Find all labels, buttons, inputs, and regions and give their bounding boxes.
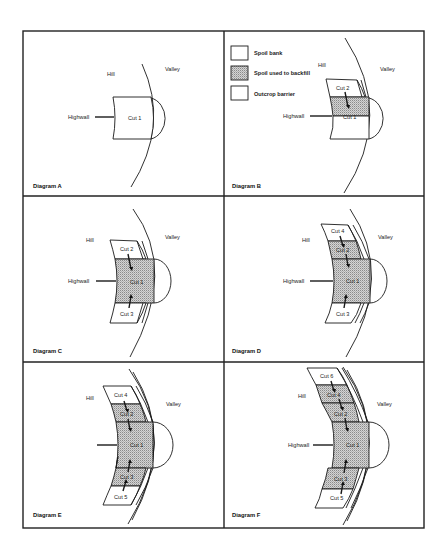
hill-label: Hill <box>86 237 94 243</box>
diagram-e: Cut 4 Cut 2 Cut 1 Cut 3 Cut 5 Hill Valle… <box>33 369 181 524</box>
hill-label: Hill <box>86 395 94 401</box>
cut-5-label: Cut 5 <box>114 494 127 500</box>
highwall-label: Highwall <box>68 114 89 120</box>
cut-1-label: Cut 1 <box>346 278 359 284</box>
cut-2-label: Cut 2 <box>334 411 347 417</box>
cut-3-label: Cut 3 <box>334 476 347 482</box>
cut-1-label: Cut 1 <box>346 442 359 448</box>
valley-label: Valley <box>378 234 393 240</box>
diagram-f: Cut 6 Cut 4 Cut 2 Cut 1 Cut 3 Cut 5 High… <box>232 367 392 525</box>
cut-1-label: Cut 1 <box>130 279 143 285</box>
valley-label: Valley <box>377 401 392 407</box>
legend: Spoil bank Spoil used to backfill Outcro… <box>231 46 310 100</box>
cut-1-label: Cut 1 <box>128 115 141 121</box>
legend-label-outcrop-barrier: Outcrop barrier <box>254 91 296 97</box>
cut-2-label: Cut 2 <box>336 247 349 253</box>
valley-label: Valley <box>380 66 395 72</box>
cut-1-label: Cut 1 <box>343 114 356 120</box>
hill-label: Hill <box>298 393 306 399</box>
legend-label-spoil-bank: Spoil bank <box>254 50 283 56</box>
diagram-e-caption: Diagram E <box>33 512 62 518</box>
valley-label: Valley <box>166 401 181 407</box>
cut-3-label: Cut 3 <box>120 311 133 317</box>
legend-swatch-spoil-bank <box>231 46 248 60</box>
cut-2-label: Cut 2 <box>336 85 349 91</box>
valley-label: Valley <box>165 66 180 72</box>
cut-3-label: Cut 3 <box>120 474 133 480</box>
diagram-a: Cut 1 Highwall Hill Valley Diagram A <box>33 64 180 189</box>
diagram-d: Cut 4 Cut 2 Cut 1 Cut 3 Highwall Hill Va… <box>232 209 393 357</box>
diagram-b: Spoil bank Spoil used to backfill Outcro… <box>231 38 395 193</box>
mining-sequence-figure: Cut 1 Highwall Hill Valley Diagram A Spo… <box>0 0 448 550</box>
outcrop-bulge <box>154 259 171 303</box>
diagram-d-caption: Diagram D <box>232 348 261 354</box>
hill-label: Hill <box>318 62 326 68</box>
diagram-f-caption: Diagram F <box>232 512 261 518</box>
highwall-label: Highwall <box>288 442 309 448</box>
cut-1-label: Cut 1 <box>130 442 143 448</box>
outcrop-barrier-strip <box>360 303 369 323</box>
legend-swatch-backfill <box>231 66 248 80</box>
hill-label: Hill <box>302 237 310 243</box>
highwall-label: Highwall <box>283 113 304 119</box>
cut-4-label: Cut 4 <box>114 392 127 398</box>
cut-2-label: Cut 2 <box>120 246 133 252</box>
outcrop-bulge <box>370 259 387 303</box>
cut-2-label: Cut 2 <box>120 411 133 417</box>
cut-6-label: Cut 6 <box>320 373 333 379</box>
diagram-b-caption: Diagram B <box>232 183 261 189</box>
cut-4-label: Cut 4 <box>327 392 340 398</box>
diagram-a-caption: Diagram A <box>33 183 63 189</box>
outcrop-bulge <box>369 98 383 139</box>
hill-label: Hill <box>107 71 115 77</box>
diagram-c-caption: Diagram C <box>33 348 63 354</box>
legend-swatch-outcrop-barrier <box>231 86 248 100</box>
outcrop-bulge <box>369 422 389 468</box>
highwall-label: Highwall <box>283 278 304 284</box>
outcrop-bulge <box>153 422 173 468</box>
cut-3-label: Cut 3 <box>336 311 349 317</box>
legend-label-backfill: Spoil used to backfill <box>254 70 310 76</box>
highwall-label: Highwall <box>68 278 89 284</box>
valley-label: Valley <box>165 234 180 240</box>
cut-5-label: Cut 5 <box>330 495 343 501</box>
cut-4-label: Cut 4 <box>331 228 344 234</box>
diagram-c: Cut 2 Cut 1 Cut 3 Highwall Hill Valley D… <box>33 209 180 357</box>
